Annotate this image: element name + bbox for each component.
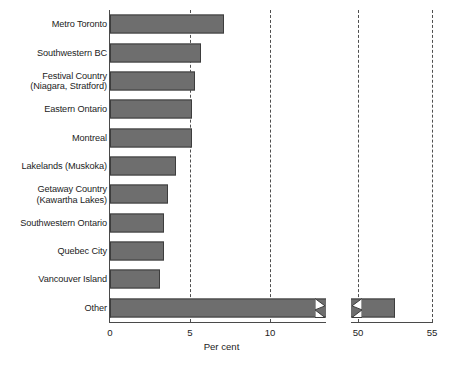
category-label-line: (Kawartha Lakes) [37, 194, 107, 205]
bar [110, 71, 195, 90]
category-label-line: Other [85, 303, 107, 314]
category-label-line: Southwestern BC [37, 47, 107, 58]
category-label: Vancouver Island [38, 274, 107, 285]
category-label: Festival Country(Niagara, Stratford) [30, 70, 107, 91]
category-label: Getaway Country(Kawartha Lakes) [37, 184, 107, 205]
gridline-55 [432, 10, 433, 322]
bar [110, 242, 164, 261]
category-label-line: Montreal [72, 132, 107, 143]
category-label: Metro Toronto [52, 19, 107, 30]
category-label-line: (Niagara, Stratford) [30, 81, 107, 92]
category-label: Montreal [72, 132, 107, 143]
category-label-line: Vancouver Island [38, 274, 107, 285]
bar-right-segment [351, 298, 395, 317]
gridline-50 [358, 10, 359, 322]
x-tick-label-55: 55 [427, 327, 438, 338]
x-tick-label-10: 10 [265, 327, 276, 338]
x-tick-label-5: 5 [187, 327, 192, 338]
category-label-line: Quebec City [58, 246, 107, 257]
category-label: Southwestern BC [37, 47, 107, 58]
x-axis-line-left-segment [109, 322, 326, 323]
category-label: Other [85, 303, 107, 314]
category-label-line: Eastern Ontario [44, 104, 107, 115]
category-label: Southwestern Ontario [20, 217, 107, 228]
bar [110, 15, 224, 34]
gridline-10 [270, 10, 271, 322]
bar-left-segment [110, 298, 326, 317]
category-label-line: Festival Country [30, 70, 107, 81]
category-label-line: Lakelands (Muskoka) [22, 161, 107, 172]
category-label: Lakelands (Muskoka) [22, 161, 107, 172]
bar-chart: Metro TorontoSouthwestern BCFestival Cou… [0, 0, 449, 366]
bar [110, 270, 160, 289]
bar [110, 100, 192, 119]
category-label: Eastern Ontario [44, 104, 107, 115]
category-label: Quebec City [58, 246, 107, 257]
bar [110, 185, 168, 204]
plot-area: Metro TorontoSouthwestern BCFestival Cou… [0, 0, 449, 366]
category-label-line: Southwestern Ontario [20, 217, 107, 228]
category-label-line: Getaway Country [37, 184, 107, 195]
x-tick-label-0: 0 [107, 327, 112, 338]
x-axis-title-text: Per cent [204, 341, 240, 352]
x-axis-title: Per cent [0, 341, 449, 352]
bar [110, 128, 192, 147]
x-axis-line-right-segment [351, 322, 433, 323]
x-tick-label-50: 50 [353, 327, 364, 338]
bar [110, 43, 201, 62]
bar [110, 213, 164, 232]
bar [110, 157, 176, 176]
category-label-line: Metro Toronto [52, 19, 107, 30]
